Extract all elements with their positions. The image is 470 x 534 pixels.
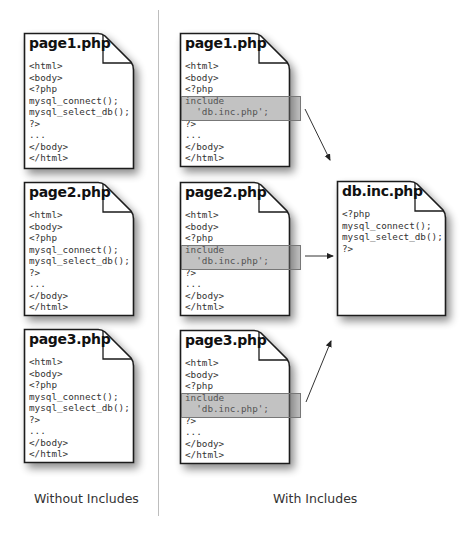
arrow-page3-to-db	[306, 341, 331, 402]
arrow-page1-to-db	[305, 109, 330, 160]
include-arrows	[0, 0, 470, 534]
